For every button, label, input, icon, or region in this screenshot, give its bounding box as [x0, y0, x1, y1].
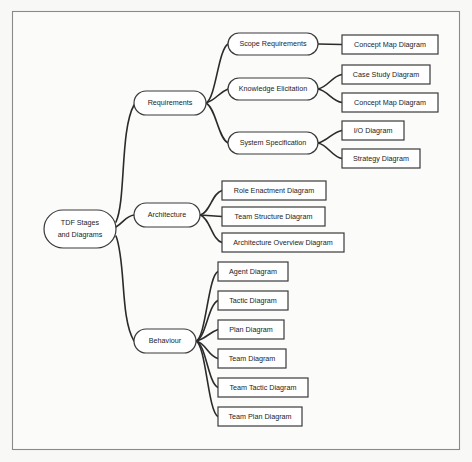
leaf-concept-map-diagram-1-label: Concept Map Diagram: [354, 40, 426, 49]
leaf-strategy-diagram-label: Strategy Diagram: [353, 154, 409, 163]
node-knowledge-elicitation-label: Knowledge Elicitation: [239, 84, 307, 93]
leaf-plan-diagram-label: Plan Diagram: [229, 325, 273, 334]
node-root-label-line1: TDF Stages: [61, 218, 100, 227]
node-root-label-line2: and Diagrams: [58, 230, 103, 239]
leaf-team-tactic-diagram[interactable]: Team Tactic Diagram: [218, 378, 308, 397]
mind-map-diagram: TDF Stages and Diagrams Requirements Sco…: [0, 0, 472, 462]
leaf-plan-diagram[interactable]: Plan Diagram: [218, 320, 284, 339]
leaf-team-diagram[interactable]: Team Diagram: [218, 349, 286, 368]
leaf-architecture-overview-diagram[interactable]: Architecture Overview Diagram: [222, 233, 344, 252]
node-system-specification-label: System Specification: [240, 138, 307, 147]
leaf-team-plan-diagram[interactable]: Team Plan Diagram: [218, 407, 302, 426]
leaf-tactic-diagram-label: Tactic Diagram: [229, 296, 277, 305]
node-requirements-label: Requirements: [148, 98, 193, 107]
leaf-agent-diagram-label: Agent Diagram: [229, 267, 277, 276]
node-behaviour[interactable]: Behaviour: [134, 329, 196, 353]
leaf-team-diagram-label: Team Diagram: [229, 354, 276, 363]
leaf-tactic-diagram[interactable]: Tactic Diagram: [218, 291, 288, 310]
node-architecture[interactable]: Architecture: [134, 203, 200, 227]
leaf-case-study-diagram[interactable]: Case Study Diagram: [342, 65, 430, 84]
node-scope-requirements[interactable]: Scope Requirements: [228, 33, 318, 55]
node-knowledge-elicitation[interactable]: Knowledge Elicitation: [228, 78, 318, 100]
leaf-agent-diagram[interactable]: Agent Diagram: [218, 262, 288, 281]
leaf-io-diagram-label: I/O Diagram: [354, 126, 393, 135]
leaf-case-study-diagram-label: Case Study Diagram: [353, 70, 419, 79]
leaf-architecture-overview-diagram-label: Architecture Overview Diagram: [233, 238, 332, 247]
leaf-concept-map-diagram-1[interactable]: Concept Map Diagram: [342, 35, 438, 54]
leaf-role-enactment-diagram[interactable]: Role Enactment Diagram: [222, 181, 326, 200]
leaf-concept-map-diagram-2-label: Concept Map Diagram: [354, 98, 426, 107]
node-system-specification[interactable]: System Specification: [228, 132, 318, 154]
node-requirements[interactable]: Requirements: [134, 91, 206, 115]
leaf-io-diagram[interactable]: I/O Diagram: [342, 121, 404, 140]
mind-map-canvas: TDF Stages and Diagrams Requirements Sco…: [0, 0, 472, 462]
connector-scope-concept-map: [318, 44, 342, 45]
node-root[interactable]: TDF Stages and Diagrams: [44, 210, 116, 248]
leaf-team-structure-diagram-label: Team Structure Diagram: [235, 212, 313, 221]
leaf-team-plan-diagram-label: Team Plan Diagram: [228, 412, 291, 421]
leaf-team-tactic-diagram-label: Team Tactic Diagram: [230, 383, 297, 392]
node-architecture-label: Architecture: [148, 210, 186, 219]
node-scope-requirements-label: Scope Requirements: [239, 39, 307, 48]
leaf-concept-map-diagram-2[interactable]: Concept Map Diagram: [342, 93, 438, 112]
node-behaviour-label: Behaviour: [149, 336, 182, 345]
leaf-role-enactment-diagram-label: Role Enactment Diagram: [234, 186, 314, 195]
leaf-strategy-diagram[interactable]: Strategy Diagram: [342, 149, 420, 168]
leaf-team-structure-diagram[interactable]: Team Structure Diagram: [222, 207, 325, 226]
